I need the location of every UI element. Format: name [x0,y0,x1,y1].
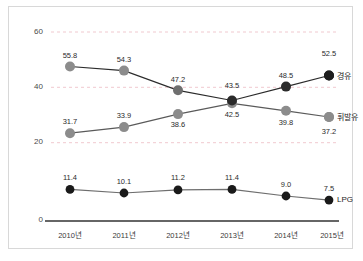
legend-label-gasoline: 휘발유 [337,111,358,122]
value-label-lpg-2011: 10.1 [107,177,141,186]
value-label-gasoline-2015: 37.2 [312,127,346,136]
legend-label-diesel: 경유 [337,70,351,81]
series-markers-diesel [65,62,334,106]
x-axis-tick-2015: 2015년 [309,229,355,240]
value-label-diesel-2011: 54.3 [107,55,141,64]
plot-area: 60 40 20 0 2010년 2011년 2012년 2013년 2014년… [9,7,354,250]
value-label-gasoline-2010: 31.7 [53,117,87,126]
value-label-lpg-2014: 9.0 [269,180,303,189]
chart-frame: 60 40 20 0 2010년 2011년 2012년 2013년 2014년… [8,6,353,249]
value-label-gasoline-2012: 38.6 [161,120,195,129]
x-axis-tick-2011: 2011년 [101,229,147,240]
value-label-diesel-2014: 48.5 [269,71,303,80]
x-axis-tick-2014: 2014년 [263,229,309,240]
y-axis-tick-0: 0 [21,215,43,224]
y-axis-tick-40: 40 [21,82,43,91]
value-label-gasoline-2011: 33.9 [107,111,141,120]
value-label-lpg-2013: 11.4 [215,173,249,182]
x-axis-tick-2010: 2010년 [47,229,93,240]
legend-marker-gasoline [324,112,334,122]
value-label-lpg-2015: 7.5 [312,184,346,193]
y-axis-tick-20: 20 [21,137,43,146]
value-label-gasoline-2014: 39.8 [269,118,303,127]
x-axis-tick-2013: 2013년 [209,229,255,240]
x-axis-tick-2012: 2012년 [155,229,201,240]
value-label-lpg-2010: 11.4 [53,173,87,182]
legend-marker-diesel [324,71,334,81]
value-label-diesel-2013: 43.5 [215,81,249,90]
value-label-gasoline-2013: 42.5 [215,110,249,119]
value-label-diesel-2010: 55.8 [53,51,87,60]
y-axis-tick-60: 60 [21,27,43,36]
value-label-diesel-2015: 52.5 [312,49,346,58]
value-label-diesel-2012: 47.2 [161,75,195,84]
legend-label-lpg: LPG [337,195,353,204]
value-label-lpg-2012: 11.2 [161,173,195,182]
